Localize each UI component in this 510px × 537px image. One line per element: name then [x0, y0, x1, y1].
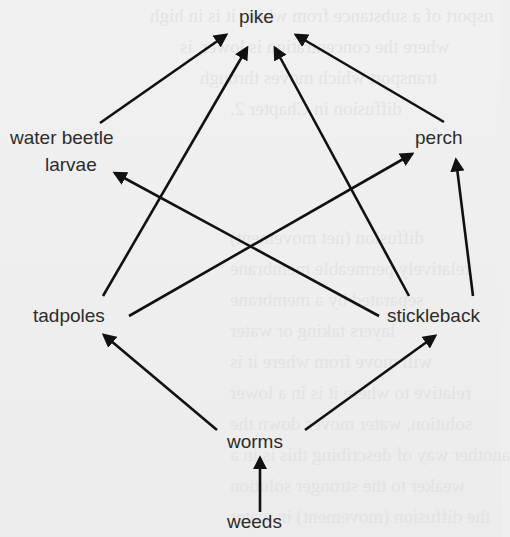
node-worms: worms [227, 431, 283, 453]
arrow-worms-to-stickleback [305, 336, 435, 430]
node-stickleback: stickleback [387, 305, 480, 327]
node-perch: perch [415, 127, 463, 149]
arrow-stickleback-to-perch [456, 160, 473, 296]
node-tadpoles: tadpoles [33, 305, 105, 327]
arrow-perch-to-pike [296, 35, 444, 122]
node-pike: pike [239, 6, 274, 28]
arrow-water-beetle-to-pike [100, 35, 226, 123]
arrow-stickleback-to-pike [275, 48, 409, 296]
arrow-worms-to-tadpoles [104, 335, 217, 430]
arrow-tadpoles-to-pike [103, 48, 247, 296]
node-weeds: weeds [227, 511, 282, 533]
node-water-beetle-larvae-line2: larvae [45, 154, 97, 176]
node-water-beetle-larvae-line1: water beetle [10, 127, 114, 149]
